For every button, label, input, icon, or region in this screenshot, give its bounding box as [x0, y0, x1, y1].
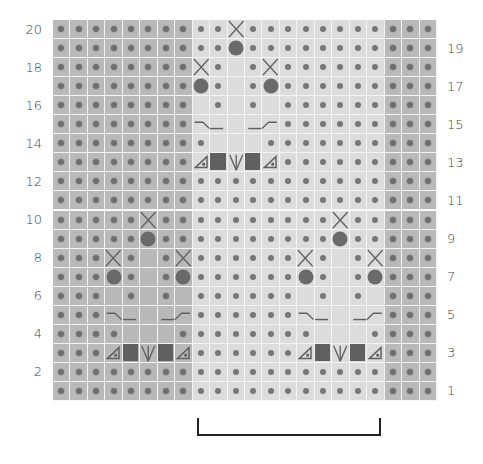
chart-cell-row-13-col-16: [315, 153, 332, 172]
chart-cell-row-14-col-17: [332, 134, 349, 153]
chart-cell-row-4-col-8: [175, 325, 192, 344]
chart-cell-row-12-col-9: [193, 172, 210, 191]
chart-cell-row-10-col-19: [367, 211, 384, 230]
chart-cell-row-14-col-10: [210, 134, 227, 153]
chart-cell-row-15-col-7: [158, 115, 175, 134]
chart-cell-row-8-col-7: [158, 249, 175, 268]
row-label-left-18: 18: [0, 60, 42, 75]
chart-cell-row-6-col-14: [280, 287, 297, 306]
chart-cell-row-12-col-11: [228, 172, 245, 191]
chart-cell-row-2-col-22: [420, 363, 437, 382]
chart-cell-row-18-col-8: [175, 58, 192, 77]
chart-cell-row-5-col-9: [193, 306, 210, 325]
chart-cell-row-17-col-12: [245, 77, 262, 96]
chart-cell-row-9-col-11: [228, 230, 245, 249]
chart-cell-row-11-col-5: [123, 191, 140, 210]
chart-cell-row-14-col-22: [420, 134, 437, 153]
chart-cell-row-7-col-9: [193, 268, 210, 287]
chart-cell-row-7-col-17: [332, 268, 349, 287]
chart-cell-row-18-col-14: [280, 58, 297, 77]
chart-cell-row-4-col-19: [367, 325, 384, 344]
chart-cell-row-20-col-18: [350, 20, 367, 39]
chart-cell-row-20-col-3: [88, 20, 105, 39]
chart-cell-row-3-col-6: [140, 344, 157, 363]
chart-cell-row-4-col-18: [350, 325, 367, 344]
chart-cell-row-10-col-10: [210, 211, 227, 230]
chart-cell-row-18-col-2: [70, 58, 87, 77]
chart-cell-row-3-col-2: [70, 344, 87, 363]
chart-cell-row-16-col-15: [297, 96, 314, 115]
chart-cell-row-1-col-21: [402, 382, 419, 401]
chart-cell-row-19-col-13: [262, 39, 279, 58]
chart-cell-row-3-col-14: [280, 344, 297, 363]
chart-cell-row-14-col-14: [280, 134, 297, 153]
chart-cell-row-16-col-13: [262, 96, 279, 115]
chart-cell-row-16-col-22: [420, 96, 437, 115]
chart-cell-row-19-col-12: [245, 39, 262, 58]
chart-cell-row-13-col-14: [280, 153, 297, 172]
chart-cell-row-4-col-10: [210, 325, 227, 344]
chart-cell-row-18-col-19: [367, 58, 384, 77]
chart-cell-row-9-col-1: [53, 230, 70, 249]
chart-cell-row-20-col-12: [245, 20, 262, 39]
chart-cell-row-16-col-6: [140, 96, 157, 115]
chart-cell-row-13-col-10: [210, 153, 227, 172]
chart-cell-row-6-col-9: [193, 287, 210, 306]
chart-cell-row-17-col-8: [175, 77, 192, 96]
chart-cell-row-11-col-14: [280, 191, 297, 210]
chart-cell-row-9-col-22: [420, 230, 437, 249]
chart-cell-row-11-col-8: [175, 191, 192, 210]
row-label-left-16: 16: [0, 98, 42, 113]
chart-cell-row-8-col-16: [315, 249, 332, 268]
chart-cell-row-2-col-5: [123, 363, 140, 382]
chart-cell-row-4-col-2: [70, 325, 87, 344]
chart-cell-row-14-col-19: [367, 134, 384, 153]
chart-cell-row-14-col-15: [297, 134, 314, 153]
chart-cell-row-16-col-18: [350, 96, 367, 115]
chart-cell-row-4-col-12: [245, 325, 262, 344]
chart-cell-row-6-col-5: [123, 287, 140, 306]
chart-cell-row-8-col-8: [175, 249, 192, 268]
chart-cell-row-18-col-5: [123, 58, 140, 77]
chart-cell-row-17-col-9: [193, 77, 210, 96]
chart-cell-row-20-col-5: [123, 20, 140, 39]
chart-cell-row-9-col-20: [385, 230, 402, 249]
chart-cell-row-5-col-1: [53, 306, 70, 325]
chart-cell-row-10-col-9: [193, 211, 210, 230]
chart-cell-row-16-col-20: [385, 96, 402, 115]
chart-cell-row-13-col-11: [228, 153, 245, 172]
chart-cell-row-6-col-4: [105, 287, 122, 306]
chart-cell-row-17-col-17: [332, 77, 349, 96]
chart-cell-row-7-col-18: [350, 268, 367, 287]
row-label-right-1: 1: [447, 383, 455, 398]
chart-cell-row-13-col-4: [105, 153, 122, 172]
chart-cell-row-12-col-2: [70, 172, 87, 191]
chart-cell-row-12-col-19: [367, 172, 384, 191]
chart-cell-row-13-col-5: [123, 153, 140, 172]
chart-cell-row-3-col-16: [315, 344, 332, 363]
chart-cell-row-15-col-18: [350, 115, 367, 134]
chart-cell-row-5-col-20: [385, 306, 402, 325]
chart-cell-row-20-col-4: [105, 20, 122, 39]
row-label-right-15: 15: [447, 117, 464, 132]
chart-cell-row-8-col-19: [367, 249, 384, 268]
chart-cell-row-7-col-13: [262, 268, 279, 287]
chart-cell-row-12-col-17: [332, 172, 349, 191]
chart-cell-row-12-col-13: [262, 172, 279, 191]
chart-cell-row-5-col-16: [315, 306, 332, 325]
chart-cell-row-4-col-5: [123, 325, 140, 344]
chart-cell-row-4-col-1: [53, 325, 70, 344]
chart-cell-row-1-col-6: [140, 382, 157, 401]
chart-cell-row-8-col-20: [385, 249, 402, 268]
chart-cell-row-15-col-9: [193, 115, 210, 134]
chart-cell-row-11-col-20: [385, 191, 402, 210]
chart-cell-row-18-col-9: [193, 58, 210, 77]
chart-cell-row-11-col-10: [210, 191, 227, 210]
chart-cell-row-10-col-22: [420, 211, 437, 230]
chart-cell-row-20-col-13: [262, 20, 279, 39]
chart-cell-row-5-col-15: [297, 306, 314, 325]
chart-cell-row-12-col-12: [245, 172, 262, 191]
chart-cell-row-5-col-5: [123, 306, 140, 325]
chart-cell-row-18-col-20: [385, 58, 402, 77]
chart-cell-row-1-col-8: [175, 382, 192, 401]
